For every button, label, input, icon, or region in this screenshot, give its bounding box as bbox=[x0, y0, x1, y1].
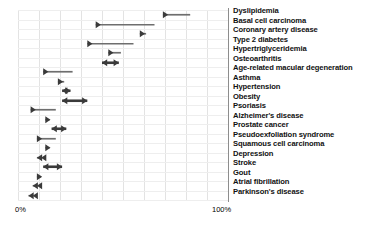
marker-row bbox=[18, 39, 228, 49]
range-marker bbox=[18, 181, 228, 191]
arrowhead-left bbox=[52, 125, 57, 132]
range-marker bbox=[18, 124, 228, 134]
arrowhead-left bbox=[62, 97, 67, 104]
range-marker bbox=[18, 58, 228, 68]
range-marker bbox=[18, 162, 228, 172]
range-marker bbox=[18, 10, 228, 20]
arrowhead-right bbox=[96, 21, 101, 28]
marker-row bbox=[18, 105, 228, 115]
arrowhead-right bbox=[61, 125, 66, 132]
category-label: Asthma bbox=[233, 73, 377, 83]
marker-row bbox=[18, 29, 228, 39]
arrowhead-left bbox=[43, 163, 48, 170]
arrowhead-left bbox=[102, 59, 107, 66]
range-marker bbox=[18, 67, 228, 77]
arrowhead-right bbox=[37, 135, 42, 142]
category-label: Depression bbox=[233, 149, 377, 159]
marker-row bbox=[18, 153, 228, 163]
arrowhead-right bbox=[140, 30, 145, 37]
marker-row bbox=[18, 115, 228, 125]
range-marker bbox=[18, 77, 228, 87]
category-label: Coronary artery disease bbox=[233, 25, 377, 35]
category-label: Type 2 diabetes bbox=[233, 35, 377, 45]
range-marker bbox=[18, 29, 228, 39]
right-axis-spine bbox=[228, 8, 229, 202]
arrowhead-right bbox=[82, 97, 87, 104]
range-marker bbox=[18, 96, 228, 106]
range-marker bbox=[18, 20, 228, 30]
range-marker bbox=[18, 39, 228, 49]
arrowhead-right bbox=[114, 59, 119, 66]
category-label: Prostate cancer bbox=[233, 120, 377, 130]
marker-row bbox=[18, 96, 228, 106]
arrowhead-right bbox=[43, 68, 48, 75]
marker-row bbox=[18, 77, 228, 87]
range-marker bbox=[18, 143, 228, 153]
category-label: Parkinson's disease bbox=[233, 187, 377, 197]
marker-row bbox=[18, 58, 228, 68]
forest-plot-figure: DyslipidemiaBasal cell carcinomaCoronary… bbox=[0, 0, 377, 229]
category-label: Stroke bbox=[233, 158, 377, 168]
arrowhead-right bbox=[31, 106, 36, 113]
category-label: Hypertriglyceridemia bbox=[233, 44, 377, 54]
category-label: Alzheimer's disease bbox=[233, 111, 377, 121]
category-label: Hypertension bbox=[233, 82, 377, 92]
marker-row bbox=[18, 181, 228, 191]
category-label: Psoriasis bbox=[233, 101, 377, 111]
range-marker bbox=[18, 105, 228, 115]
marker-row bbox=[18, 134, 228, 144]
arrowhead-right bbox=[45, 116, 50, 123]
marker-row bbox=[18, 86, 228, 96]
x-axis-tick-100: 100% bbox=[212, 205, 231, 214]
marker-row bbox=[18, 191, 228, 201]
category-label: Age-related macular degeneration bbox=[233, 63, 377, 73]
marker-row bbox=[18, 20, 228, 30]
arrowhead-right bbox=[45, 144, 50, 151]
category-label-list: DyslipidemiaBasal cell carcinomaCoronary… bbox=[233, 6, 377, 196]
range-marker bbox=[18, 153, 228, 163]
arrowhead-right bbox=[108, 49, 113, 56]
marker-row bbox=[18, 124, 228, 134]
marker-row bbox=[18, 162, 228, 172]
marker-row bbox=[18, 143, 228, 153]
category-label: Obesity bbox=[233, 92, 377, 102]
plot-area bbox=[18, 10, 228, 200]
arrowhead-right bbox=[37, 173, 42, 180]
category-label: Gout bbox=[233, 168, 377, 178]
arrowhead-right bbox=[163, 11, 168, 18]
category-label: Dyslipidemia bbox=[233, 6, 377, 16]
category-label: Basal cell carcinoma bbox=[233, 16, 377, 26]
range-marker bbox=[18, 134, 228, 144]
marker-row bbox=[18, 48, 228, 58]
marker-row bbox=[18, 10, 228, 20]
range-marker bbox=[18, 172, 228, 182]
marker-row bbox=[18, 67, 228, 77]
arrowhead-right bbox=[57, 163, 62, 170]
x-axis-tick-0: 0% bbox=[15, 205, 26, 214]
marker-row bbox=[18, 172, 228, 182]
arrowhead-right bbox=[87, 40, 92, 47]
category-label: Squamous cell carcinoma bbox=[233, 139, 377, 149]
arrowhead-right bbox=[65, 87, 70, 94]
category-label: Atrial fibrillation bbox=[233, 177, 377, 187]
category-label: Pseudoexfoliation syndrome bbox=[233, 130, 377, 140]
range-marker bbox=[18, 48, 228, 58]
range-marker bbox=[18, 115, 228, 125]
category-label: Osteoarthritis bbox=[233, 54, 377, 64]
range-marker bbox=[18, 191, 228, 201]
arrowhead-right bbox=[58, 78, 63, 85]
range-marker bbox=[18, 86, 228, 96]
